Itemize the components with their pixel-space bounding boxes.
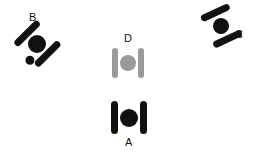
shape-bar-left (112, 48, 118, 78)
shape-bar-right (140, 101, 147, 134)
object-label-c: C (235, 29, 243, 40)
object-label-b: B (29, 12, 36, 23)
shape-circle-center (120, 109, 138, 127)
shape-bar-left (111, 101, 118, 134)
shape-circle-center (120, 55, 136, 71)
figure-canvas: ABCD (0, 0, 257, 154)
object-label-a: A (125, 137, 132, 148)
object-label-d: D (124, 33, 132, 44)
shape-bar-right (138, 48, 144, 78)
